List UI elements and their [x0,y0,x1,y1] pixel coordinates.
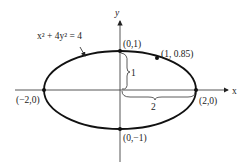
point-bottom [118,127,122,131]
point-left [42,88,46,92]
point-right [194,88,198,92]
y-axis-label: y [114,8,120,18]
label-top: (0,1) [123,39,141,50]
point-q1 [155,56,159,60]
label-left: (−2,0) [16,95,40,106]
ellipse-diagram: x² + 4y² = 4 y x (0,1) (1, 0.85) (−2,0) … [0,0,243,166]
label-q1: (1, 0.85) [161,49,193,60]
brace-horizontal [122,91,195,100]
x-axis-label: x [232,86,237,96]
equation-label: x² + 4y² = 4 [37,31,82,41]
point-top [118,49,122,53]
label-bottom: (0,−1) [123,133,147,144]
brace-vertical-label: 1 [131,68,136,78]
label-right: (2,0) [199,96,217,107]
brace-horizontal-label: 2 [151,102,156,112]
brace-vertical [121,53,130,89]
equation-pointer [80,47,85,56]
